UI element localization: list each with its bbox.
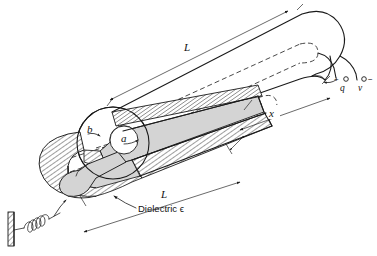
plus-sign-label: + [334, 75, 339, 84]
positive-terminal-dot [344, 77, 349, 82]
bottom-length-label: L [160, 188, 167, 200]
negative-terminal-dot [362, 77, 367, 82]
coaxial-capacitor-diagram: b a L x [0, 0, 377, 256]
dielectric-label: Dielectric ϵ [138, 203, 184, 214]
top-length-label: L [183, 41, 190, 53]
figure-container: b a L x [0, 0, 377, 256]
minus-sign-label: − [368, 75, 373, 84]
charge-label: q [340, 83, 345, 93]
fixed-wall [8, 212, 14, 246]
radius-a-label: a [121, 132, 127, 144]
radius-b-label: b [87, 123, 93, 135]
x-length-label: x [268, 107, 274, 119]
